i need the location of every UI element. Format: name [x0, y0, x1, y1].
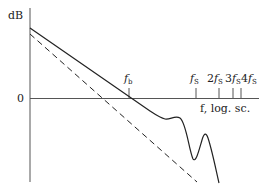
tick-subscript: S: [194, 78, 199, 86]
tick-subscript: S: [252, 78, 257, 86]
tick-coef: 4: [241, 72, 248, 85]
tick-subscript: S: [218, 78, 223, 86]
bode-magnitude-diagram: dB 0 fb fS 2fS 3fS 4fS f, log. sc.: [0, 0, 267, 189]
y-axis-label: dB: [8, 10, 23, 21]
response-curve: [30, 28, 219, 183]
tick-coef: 3: [225, 72, 232, 85]
tick-coef: 2: [207, 72, 214, 85]
x-axis-ticks: [129, 88, 241, 99]
tick-label-4fs: 4fS: [241, 73, 257, 86]
tick-label-3fs: 3fS: [225, 73, 241, 86]
asymptote-curve: [30, 34, 197, 182]
tick-label-fb: fb: [124, 73, 133, 86]
tick-label-fs: fS: [190, 73, 199, 86]
plot-canvas: [0, 0, 267, 189]
tick-subscript: b: [128, 78, 132, 86]
zero-label: 0: [17, 93, 24, 104]
x-axis-label: f, log. sc.: [200, 103, 250, 114]
tick-label-2fs: 2fS: [207, 73, 223, 86]
